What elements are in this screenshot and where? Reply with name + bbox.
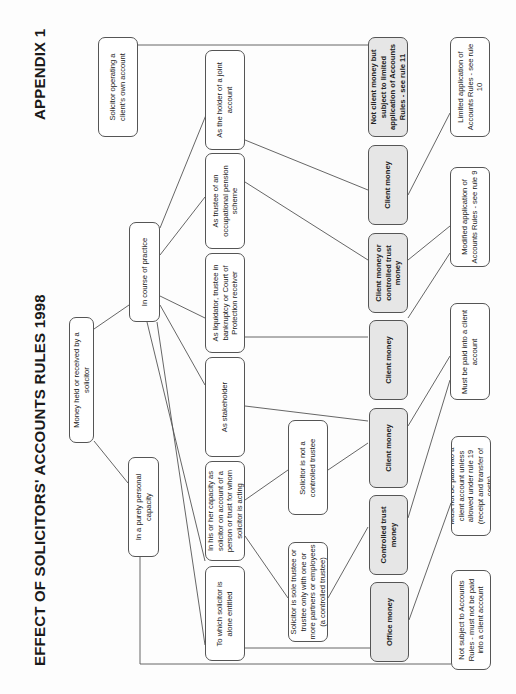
- node-label: As liquidator, trustee in bankruptcy or …: [211, 256, 240, 350]
- node-label: Client money: [383, 147, 393, 223]
- diagram-title: EFFECT OF SOLICITORS' ACCOUNTS RULES 199…: [31, 294, 48, 666]
- node-client-own-account: Solicitor operating a client's own accou…: [98, 37, 138, 137]
- diagram-canvas: EFFECT OF SOLICITORS' ACCOUNTS RULES 199…: [0, 0, 516, 694]
- node-label: Must not be paid into a client account u…: [451, 438, 491, 534]
- node-rule-9: Modified application of Accounts Rules -…: [450, 167, 490, 267]
- node-label: As trustee of an occupational pension sc…: [211, 156, 240, 246]
- node-joint-account: As the holder of a joint account: [205, 50, 245, 150]
- node-sole-trustee: Solicitor is sole trustee or trustee onl…: [288, 542, 328, 642]
- node-pension-trustee: As trustee of an occupational pension sc…: [205, 153, 245, 249]
- node-not-client-money: Not client money but subject to limited …: [368, 37, 408, 137]
- node-label: In course of practice: [140, 224, 150, 320]
- node-label: To which solicitor is alone entitled: [215, 572, 234, 656]
- node-label: Money held or received by a solicitor: [72, 320, 91, 440]
- node-label: Controlled trust money: [379, 497, 398, 573]
- node-stakeholder: As stakeholder: [205, 357, 245, 457]
- node-label: As stakeholder: [220, 360, 230, 454]
- node-solicitor-capacity: In his or her capacity as solicitor on a…: [205, 461, 245, 561]
- node-controlled-trust-money: Controlled trust money: [369, 495, 408, 575]
- node-label: Solicitor operating a client's own accou…: [108, 41, 127, 133]
- node-label: Must be paid into a client account: [460, 307, 479, 397]
- node-label: Solicitor is not a controlled trustee: [298, 425, 317, 511]
- node-label: In a purely personal capacity: [134, 459, 153, 555]
- node-label: Client money or controlled trust money: [374, 235, 403, 311]
- node-in-course-of-practice: In course of practice: [129, 222, 160, 322]
- node-not-subject: Not subject to Accounts Rules - must not…: [451, 570, 491, 670]
- node-label: Client money: [384, 410, 394, 486]
- node-liquidator: As liquidator, trustee in bankruptcy or …: [205, 253, 245, 353]
- node-label: Not client money but subject to limited …: [369, 39, 407, 135]
- node-label: Modified application of Accounts Rules -…: [460, 170, 479, 264]
- node-office-money: Office money: [370, 582, 409, 662]
- node-client-money-joint: Client money: [368, 145, 408, 225]
- node-money-held: Money held or received by a solicitor: [69, 317, 94, 443]
- node-label: Solicitor is sole trustee or trustee onl…: [289, 544, 327, 640]
- node-label: Limited application of Accounts Rules - …: [456, 40, 485, 134]
- node-alone-entitled: To which solicitor is alone entitled: [205, 566, 245, 661]
- node-client-money-liquidator: Client money: [369, 320, 408, 400]
- appendix-label: APPENDIX 1: [31, 29, 48, 120]
- node-label: Not subject to Accounts Rules - must not…: [457, 572, 486, 668]
- node-must-be-paid: Must be paid into a client account: [450, 303, 490, 400]
- node-label: Office money: [385, 584, 395, 660]
- node-must-not-be-paid: Must not be paid into a client account u…: [451, 436, 491, 536]
- node-label: Client money: [384, 322, 394, 398]
- node-not-controlled-trustee: Solicitor is not a controlled trustee: [288, 420, 328, 515]
- node-personal-capacity: In a purely personal capacity: [128, 457, 159, 557]
- node-label: In his or her capacity as solicitor on a…: [206, 463, 244, 559]
- node-client-or-controlled-money: Client money or controlled trust money: [368, 233, 408, 313]
- node-label: As the holder of a joint account: [215, 53, 234, 147]
- node-rule-10: Limited application of Accounts Rules - …: [450, 37, 490, 137]
- node-client-money-stakeholder: Client money: [369, 408, 408, 488]
